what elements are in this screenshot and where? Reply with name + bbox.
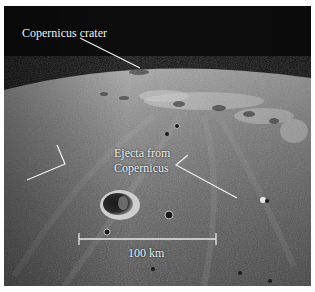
lunar-surface-photo: Copernicus crater Ejecta from Copernicus… [4,6,311,286]
ejecta-label-line2: Copernicus [114,161,169,175]
scale-label: 100 km [128,246,164,260]
ejecta-label-line1: Ejecta from [114,146,170,160]
crater-label: Copernicus crater [22,26,107,40]
